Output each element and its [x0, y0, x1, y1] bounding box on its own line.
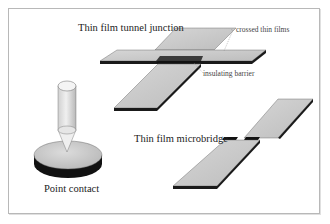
- insulating-barrier: [156, 61, 201, 63]
- diagonal-film-lower: [114, 64, 201, 111]
- insulating-barrier-annotation: insulating barrier: [203, 69, 254, 78]
- microbridge-notch-right: [244, 137, 260, 140]
- diagram-canvas: Thin film tunnel junction crossed thin f…: [0, 0, 330, 224]
- point-contact-graphic: [34, 81, 102, 178]
- tunnel-junction-label: Thin film tunnel junction: [78, 22, 184, 33]
- point-contact-label: Point contact: [44, 183, 99, 194]
- microbridge-label: Thin film microbridge: [134, 133, 228, 144]
- microbridge-graphic: [173, 99, 313, 189]
- crossed-films-annotation: crossed thin films: [236, 25, 289, 34]
